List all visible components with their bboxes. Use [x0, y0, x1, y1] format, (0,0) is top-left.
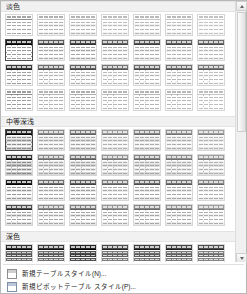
table-style-medium-20[interactable]	[165, 179, 193, 201]
table-style-light-28[interactable]	[197, 89, 225, 111]
table-style-light-17[interactable]	[69, 64, 97, 86]
thumb-cell	[118, 162, 122, 163]
table-style-medium-27[interactable]	[165, 204, 193, 226]
table-style-medium-25[interactable]	[101, 204, 129, 226]
table-style-dark-4[interactable]	[101, 244, 129, 263]
table-style-dark-1[interactable]	[5, 244, 33, 263]
table-style-medium-3[interactable]	[69, 129, 97, 151]
table-style-dark-2[interactable]	[37, 244, 65, 263]
thumb-cell	[177, 169, 181, 170]
table-style-light-9[interactable]	[37, 39, 65, 61]
table-style-medium-16[interactable]	[37, 179, 65, 201]
table-style-medium-2[interactable]	[37, 129, 65, 151]
thumb-band-row	[6, 32, 32, 35]
thumb-cell	[59, 169, 63, 170]
table-style-light-27[interactable]	[165, 89, 193, 111]
thumb-header-cell	[71, 156, 75, 157]
thumb-header-cell	[27, 156, 31, 157]
table-style-light-24[interactable]	[69, 89, 97, 111]
thumb-cell	[209, 72, 213, 73]
thumb-cell	[155, 100, 159, 101]
table-style-medium-9[interactable]	[37, 154, 65, 176]
table-style-light-26[interactable]	[133, 89, 161, 111]
table-style-medium-12[interactable]	[133, 154, 161, 176]
table-style-medium-10[interactable]	[69, 154, 97, 176]
new-table-style-item[interactable]: 新規テーブルスタイル(N)...	[1, 267, 246, 280]
table-style-medium-26[interactable]	[133, 204, 161, 226]
table-style-light-21[interactable]	[197, 64, 225, 86]
table-style-medium-1[interactable]	[5, 129, 33, 151]
table-style-medium-18[interactable]	[101, 179, 129, 201]
table-style-medium-15[interactable]	[5, 179, 33, 201]
table-style-medium-23[interactable]	[37, 204, 65, 226]
table-style-dark-6[interactable]	[165, 244, 193, 263]
thumb-cell	[219, 223, 223, 224]
table-style-medium-13[interactable]	[165, 154, 193, 176]
table-style-light-13[interactable]	[165, 39, 193, 61]
gallery-scrollbar[interactable]	[235, 1, 246, 263]
table-style-dark-3[interactable]	[69, 244, 97, 263]
table-style-light-5[interactable]	[133, 14, 161, 36]
thumb-body	[102, 95, 128, 110]
table-style-medium-5[interactable]	[133, 129, 161, 151]
table-style-light-11[interactable]	[101, 39, 129, 61]
table-style-light-4[interactable]	[101, 14, 129, 36]
table-style-light-8[interactable]	[5, 39, 33, 61]
thumb-cell	[123, 58, 127, 59]
thumb-cell	[150, 104, 154, 105]
thumb-cell	[199, 219, 203, 220]
new-pivot-table-style-item[interactable]: 新規ピボットテーブル スタイル(P)...	[1, 280, 246, 293]
table-style-medium-7[interactable]	[197, 129, 225, 151]
table-style-light-10[interactable]	[69, 39, 97, 61]
thumb-cell	[123, 187, 127, 188]
thumb-band-row	[38, 193, 64, 196]
table-style-light-20[interactable]	[165, 64, 193, 86]
table-style-medium-21[interactable]	[197, 179, 225, 201]
table-style-medium-14[interactable]	[197, 154, 225, 176]
thumb-band-row	[198, 46, 224, 49]
table-style-light-12[interactable]	[133, 39, 161, 61]
table-style-medium-4[interactable]	[101, 129, 129, 151]
table-style-light-3[interactable]	[69, 14, 97, 36]
gallery-scroll-area[interactable]: 淡色中等深浅深色	[1, 1, 236, 263]
table-style-medium-22[interactable]	[5, 204, 33, 226]
table-style-light-14[interactable]	[197, 39, 225, 61]
table-style-medium-8[interactable]	[5, 154, 33, 176]
table-style-medium-19[interactable]	[133, 179, 161, 201]
table-style-light-25[interactable]	[101, 89, 129, 111]
table-style-dark-5[interactable]	[133, 244, 161, 263]
table-style-dark-7[interactable]	[197, 244, 225, 263]
table-style-light-6[interactable]	[165, 14, 193, 36]
thumb-cell	[123, 165, 127, 166]
table-style-light-23[interactable]	[37, 89, 65, 111]
thumb-header-cell	[86, 91, 90, 92]
table-style-light-7[interactable]	[197, 14, 225, 36]
table-style-medium-6[interactable]	[165, 129, 193, 151]
table-style-medium-17[interactable]	[69, 179, 97, 201]
thumb-band-row	[70, 46, 96, 49]
table-style-medium-11[interactable]	[101, 154, 129, 176]
thumb-header-cell	[209, 246, 213, 247]
thumb-band-row	[102, 28, 128, 31]
table-style-light-22[interactable]	[5, 89, 33, 111]
table-style-light-15[interactable]	[5, 64, 33, 86]
table-style-light-1[interactable]	[5, 14, 33, 36]
thumb-cell	[177, 58, 181, 59]
table-style-light-19[interactable]	[133, 64, 161, 86]
table-style-light-2[interactable]	[37, 14, 65, 36]
scroll-up-button[interactable]	[236, 1, 247, 11]
thumb-header-cell	[135, 156, 139, 157]
table-style-light-16[interactable]	[37, 64, 65, 86]
thumb-cell	[12, 83, 16, 84]
thumb-header-cell	[22, 181, 26, 182]
thumb-cell	[214, 75, 218, 76]
thumb-band-row	[134, 49, 160, 52]
thumb-cell	[59, 75, 63, 76]
thumb-cell	[17, 137, 21, 138]
thumb-cell	[39, 33, 43, 34]
thumb-header-cell	[118, 131, 122, 132]
table-style-medium-24[interactable]	[69, 204, 97, 226]
table-style-light-18[interactable]	[101, 64, 129, 86]
scrollbar-thumb[interactable]	[237, 12, 246, 132]
table-style-medium-28[interactable]	[197, 204, 225, 226]
